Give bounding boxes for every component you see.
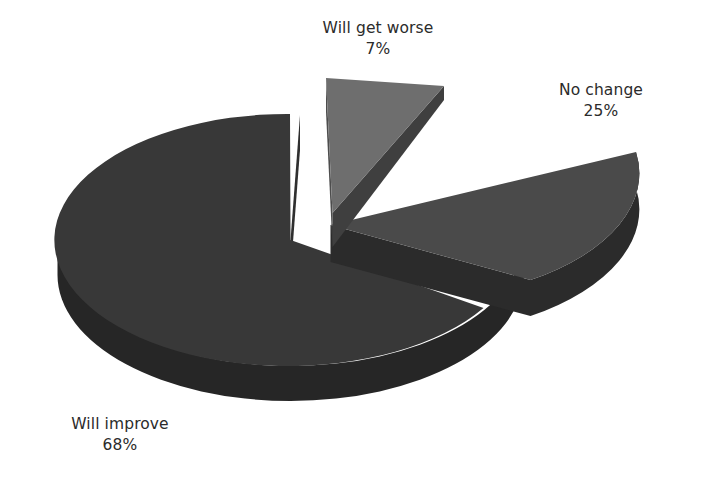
slice-label-no-change-value: 25% (504, 101, 698, 122)
slice-label-will-improve: Will improve 68% (0, 414, 240, 457)
slice-label-will-get-worse-value: 7% (266, 39, 490, 60)
slice-label-will-improve-value: 68% (0, 435, 240, 456)
pie-chart: Will get worse 7% No change 25% Will imp… (0, 0, 705, 492)
slice-will-get-worse-top (326, 78, 444, 213)
slice-label-no-change-name: No change (504, 80, 698, 101)
slice-label-no-change: No change 25% (504, 80, 698, 123)
slice-label-will-improve-name: Will improve (0, 414, 240, 435)
slice-label-will-get-worse: Will get worse 7% (266, 18, 490, 61)
slice-label-will-get-worse-name: Will get worse (266, 18, 490, 39)
